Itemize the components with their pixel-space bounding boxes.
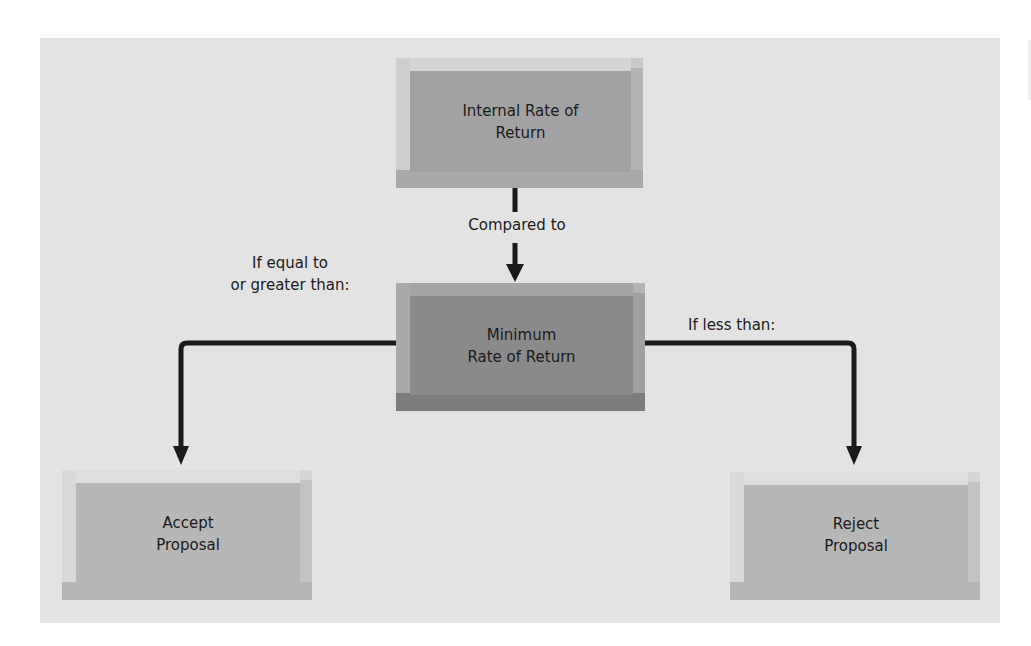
node-text: Return [496,122,546,144]
compared-to-label: Compared to [452,214,582,236]
node-text: Accept [162,512,213,534]
box-bevel [396,58,631,71]
accept-proposal-box: Accept Proposal [62,470,312,600]
node-text: Minimum [487,324,557,346]
internal-rate-of-return-box: Internal Rate of Return [396,58,643,188]
box-bevel [396,393,645,411]
node-text: Reject [833,513,880,535]
box-face: Minimum Rate of Return [410,296,633,395]
label-line: or greater than: [205,274,375,296]
box-face: Accept Proposal [76,483,300,584]
reject-proposal-box: Reject Proposal [730,472,980,600]
greater-equal-label: If equal to or greater than: [205,252,375,296]
box-bevel [62,582,312,600]
minimum-rate-of-return-box: Minimum Rate of Return [396,283,645,411]
box-face: Internal Rate of Return [410,71,631,172]
box-face: Reject Proposal [744,485,968,584]
node-text: Proposal [824,535,888,557]
box-bevel [730,582,980,600]
box-bevel [730,472,968,485]
box-bevel [396,283,633,296]
node-text: Rate of Return [467,346,575,368]
box-bevel [62,470,76,584]
box-bevel [62,470,300,483]
box-bevel [396,58,410,172]
box-bevel [730,472,744,584]
box-bevel [396,170,643,188]
label-line: If equal to [205,252,375,274]
node-text: Internal Rate of [462,100,578,122]
less-than-label: If less than: [688,314,798,336]
node-text: Proposal [156,534,220,556]
box-bevel [396,283,410,395]
